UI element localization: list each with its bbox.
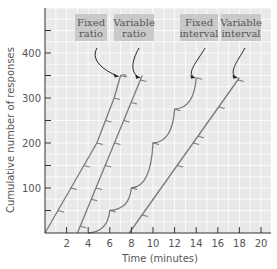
x-tick-label: 14	[190, 238, 203, 249]
y-tick-label: 400	[22, 48, 41, 59]
y-tick-label: 100	[22, 183, 41, 194]
x-tick-label: 20	[255, 238, 268, 249]
label-text: interval	[221, 28, 260, 39]
label-text: interval	[179, 28, 218, 39]
label-text: Variable	[112, 17, 155, 28]
x-tick-label: 6	[107, 238, 113, 249]
label-text: Fixed	[185, 17, 214, 28]
y-axis-title: Cumulative number of responses	[5, 47, 16, 213]
x-tick-label: 18	[233, 238, 246, 249]
x-tick-label: 16	[211, 238, 224, 249]
x-tick-label: 2	[63, 238, 69, 249]
x-tick-label: 4	[85, 238, 91, 249]
grid-lines	[45, 8, 271, 233]
x-axis-title: Time (minutes)	[121, 253, 198, 264]
label-text: ratio	[79, 28, 103, 39]
label-text: ratio	[122, 28, 146, 39]
label-text: Fixed	[77, 17, 106, 28]
cumulative-response-chart: 2468101214161820100200300400 FixedratioV…	[0, 0, 277, 269]
y-tick-label: 300	[22, 93, 41, 104]
x-tick-label: 8	[128, 238, 134, 249]
y-tick-label: 200	[22, 138, 41, 149]
label-text: Variable	[219, 17, 262, 28]
x-tick-label: 12	[168, 238, 181, 249]
x-tick-label: 10	[147, 238, 160, 249]
